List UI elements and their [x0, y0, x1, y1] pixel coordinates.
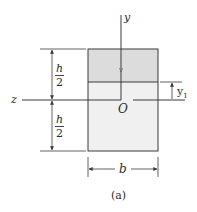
origin-label: O: [118, 103, 128, 115]
upper-half-height-label: h 2: [55, 63, 64, 88]
figure-caption: (a): [111, 190, 126, 201]
upper-h-numerator: h: [56, 63, 63, 74]
width-label: b: [119, 163, 127, 175]
upper-shaded-region: [88, 49, 158, 82]
cross-section-figure: y z O h 2 h 2 y1 b (a): [0, 0, 197, 212]
upper-h-denominator: 2: [56, 77, 63, 88]
y-axis-label: y: [124, 12, 130, 23]
lower-h-denominator: 2: [56, 128, 63, 139]
diagram-canvas: [0, 0, 197, 212]
y1-offset-label: y1: [177, 86, 188, 100]
y1-subscript: 1: [183, 92, 187, 100]
z-axis-label: z: [11, 94, 17, 105]
lower-h-numerator: h: [56, 114, 63, 125]
lower-half-height-label: h 2: [55, 114, 64, 139]
